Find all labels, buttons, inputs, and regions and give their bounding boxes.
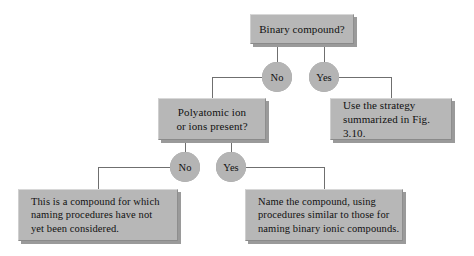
bubble-binary-no-label: No (271, 72, 284, 83)
bubble-polyatomic-no-label: No (179, 162, 192, 173)
node-not-considered-label: This is a compound for which naming proc… (31, 195, 177, 236)
node-name-compound-label: Name the compound, using procedures simi… (258, 195, 402, 236)
flowchart-diagram: Binary compound? Polyatomic ion or ions … (0, 0, 474, 256)
bubble-polyatomic-yes: Yes (216, 152, 246, 182)
bubble-binary-yes-label: Yes (316, 72, 331, 83)
wire-yes-to-strategy (339, 78, 392, 99)
wire-yes-to-name-compound (246, 168, 325, 190)
node-use-strategy-label: Use the strategy summarized in Fig. 3.10… (343, 98, 451, 141)
wire-no-to-not-considered (99, 168, 171, 190)
node-binary-compound-question: Binary compound? (250, 14, 354, 44)
node-binary-compound-label: Binary compound? (251, 22, 353, 36)
bubble-polyatomic-no: No (170, 152, 200, 182)
bubble-polyatomic-yes-label: Yes (223, 162, 238, 173)
node-not-considered-result: This is a compound for which naming proc… (18, 189, 178, 241)
bubble-binary-yes: Yes (309, 62, 339, 92)
node-polyatomic-ion-question: Polyatomic ion or ions present? (158, 98, 266, 140)
node-use-strategy-result: Use the strategy summarized in Fig. 3.10… (330, 98, 452, 140)
node-polyatomic-ion-label: Polyatomic ion or ions present? (159, 105, 265, 134)
bubble-binary-no: No (262, 62, 292, 92)
node-name-compound-result: Name the compound, using procedures simi… (245, 189, 403, 241)
wire-no-to-polyatomic (213, 78, 263, 99)
